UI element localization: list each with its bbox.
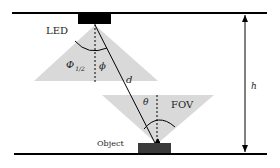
distance-label: d bbox=[126, 74, 132, 85]
object-box bbox=[138, 143, 171, 153]
fov-label: FOV bbox=[171, 99, 194, 110]
led-box bbox=[78, 13, 111, 24]
vlc-geometry-diagram: LED Φ1/2 ϕ d θ FOV Object h bbox=[0, 0, 280, 168]
object-label: Object bbox=[97, 139, 124, 148]
led-label: LED bbox=[46, 25, 68, 36]
phi-label: ϕ bbox=[99, 60, 106, 71]
theta-label: θ bbox=[143, 97, 149, 107]
fov-cone bbox=[102, 95, 214, 144]
height-label: h bbox=[251, 81, 257, 91]
height-arrow-bottom-head bbox=[242, 145, 248, 152]
distance-line bbox=[95, 25, 155, 143]
height-arrow-top-head bbox=[242, 15, 248, 22]
